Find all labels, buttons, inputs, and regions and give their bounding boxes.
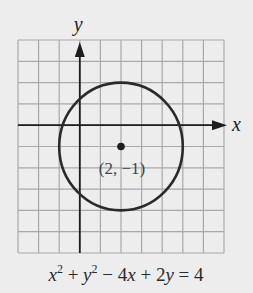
- circle-graph: x y (2, −1) x2 + y2 − 4x + 2y = 4: [0, 0, 253, 293]
- center-point-label: (2, −1): [99, 159, 145, 178]
- eq-op: +: [63, 264, 83, 285]
- x-axis-label: x: [231, 113, 241, 135]
- eq-op: = 4: [174, 264, 204, 285]
- y-axis-arrow-icon: [75, 42, 85, 57]
- eq-op: − 4: [98, 264, 128, 285]
- eq-op: + 2: [136, 264, 166, 285]
- center-point: [117, 143, 125, 151]
- x-axis-arrow-icon: [212, 120, 227, 130]
- eq-term: y: [81, 264, 92, 285]
- y-axis-label: y: [72, 13, 83, 36]
- equation-label: x2 + y2 − 4x + 2y = 4: [47, 262, 204, 285]
- eq-term: y: [163, 264, 174, 285]
